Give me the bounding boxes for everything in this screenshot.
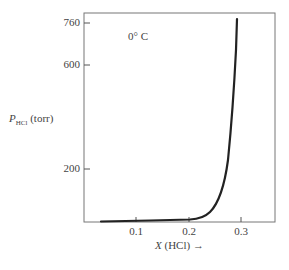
x-tick-label-0.2: 0.2	[174, 225, 204, 237]
temperature-annotation: 0° C	[128, 30, 148, 42]
plot-frame	[84, 13, 275, 222]
y-tick-label-200: 200	[40, 162, 80, 174]
pressure-curve	[101, 19, 237, 222]
x-axis-label-rest: (HCl) →	[162, 239, 204, 251]
y-axis-label-sub: HCl	[16, 119, 28, 127]
x-axis-label: X (HCl) →	[155, 239, 204, 251]
y-axis-label-var: P	[9, 112, 16, 124]
y-tick-label-600: 600	[40, 58, 80, 70]
x-tick-label-0.3: 0.3	[226, 225, 256, 237]
x-axis-label-var: X	[155, 239, 162, 251]
y-axis-label: PHCl (torr)	[9, 112, 53, 127]
y-tick-label-760: 760	[40, 16, 80, 28]
x-tick-label-0.1: 0.1	[121, 225, 151, 237]
y-axis-label-unit: (torr)	[27, 112, 53, 124]
